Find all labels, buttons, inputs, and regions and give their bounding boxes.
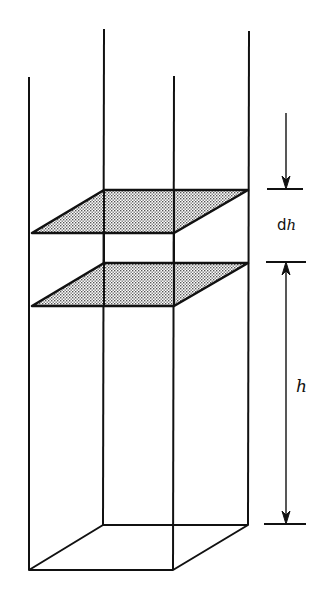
front-right-edge: [173, 76, 174, 570]
h-label: h: [296, 376, 307, 396]
dh-dimension: [266, 113, 306, 262]
column-base: [29, 525, 248, 570]
dh-label: dh: [277, 216, 296, 234]
upper-slab-surface: [32, 190, 248, 233]
fluid-column-diagram: dh h: [0, 0, 332, 598]
lower-slab-surface: [32, 263, 248, 306]
back-right-edge: [248, 31, 249, 525]
